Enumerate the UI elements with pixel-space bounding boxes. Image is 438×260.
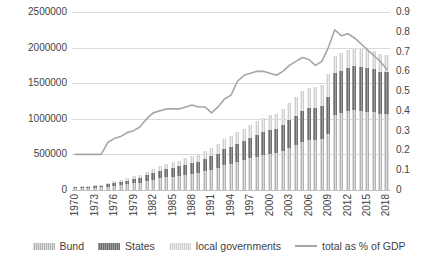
stacked-bar[interactable] [333,56,337,190]
legend-item[interactable]: Bund [33,241,85,252]
bar-segment [287,148,291,190]
stacked-bar[interactable] [99,185,103,190]
stacked-bar[interactable] [339,53,343,190]
stacked-bar[interactable] [307,88,311,190]
stacked-bar[interactable] [365,50,369,190]
bar-segment [106,187,110,190]
stacked-bar[interactable] [86,186,90,190]
legend-item[interactable]: total as % of GDP [295,241,405,252]
bar-segment [365,112,369,190]
stacked-bar[interactable] [196,155,200,190]
stacked-bar[interactable] [268,115,272,190]
bar-segment [372,112,376,190]
y-axis-tick-label: 2000000 [28,43,67,53]
legend-item[interactable]: States [98,241,155,252]
bar-segment [93,188,97,190]
stacked-bar[interactable] [313,87,317,190]
stacked-bar[interactable] [209,148,213,190]
stacked-bar[interactable] [359,48,363,190]
stacked-bar[interactable] [93,185,97,190]
bar-segment [372,51,376,69]
stacked-bar[interactable] [346,50,350,190]
bar-segment [196,162,200,173]
stacked-bar[interactable] [229,136,233,190]
stacked-bar[interactable] [384,55,388,190]
stacked-bar[interactable] [80,186,84,190]
stacked-bar[interactable] [125,178,129,190]
stacked-bar[interactable] [171,162,175,190]
stacked-bar[interactable] [222,139,226,190]
stacked-bar[interactable] [300,91,304,190]
bar-segment [209,148,213,156]
stacked-bar[interactable] [119,180,123,190]
stacked-bar[interactable] [177,161,181,190]
bar-segment [326,134,330,190]
y-axis-tick-label: 0 [61,185,67,195]
bar-segment [384,114,388,190]
stacked-bar[interactable] [320,85,324,190]
stacked-bar[interactable] [158,166,162,190]
bar-segment [261,132,265,155]
stacked-bar[interactable] [287,103,291,190]
bar-segment [80,188,84,190]
legend-label: Bund [60,241,85,252]
legend-swatch-icon [169,243,191,250]
stacked-bar[interactable] [73,187,77,190]
bar-series-group [72,12,390,190]
stacked-bar[interactable] [132,176,136,190]
stacked-bar[interactable] [183,158,187,190]
stacked-bar[interactable] [261,118,265,190]
bar-segment [235,162,239,190]
bar-segment [209,156,213,169]
stacked-bar[interactable] [190,156,194,190]
bar-segment [281,125,285,150]
bar-segment [248,138,252,158]
bar-segment [372,69,376,112]
stacked-bar[interactable] [372,51,376,190]
stacked-bar[interactable] [378,54,382,190]
bar-segment [365,50,369,68]
bar-segment [164,177,168,190]
stacked-bar[interactable] [151,169,155,190]
bar-segment [222,165,226,190]
stacked-bar[interactable] [112,181,116,190]
legend-item[interactable]: local governments [169,241,281,252]
stacked-bar[interactable] [294,97,298,190]
stacked-bar[interactable] [145,172,149,190]
stacked-bar[interactable] [242,129,246,190]
bar-segment [287,120,291,147]
bar-segment [359,111,363,190]
y-axis-tick-label: 1500000 [28,78,67,88]
stacked-bar[interactable] [164,164,168,190]
bar-segment [339,113,343,190]
y-axis-tick-label: 500000 [34,149,67,159]
legend-label: local governments [196,241,281,252]
bar-segment [384,72,388,114]
bar-segment [151,180,155,190]
stacked-bar[interactable] [352,48,356,190]
stacked-bar[interactable] [255,121,259,190]
stacked-bar[interactable] [248,125,252,190]
stacked-bar[interactable] [106,183,110,190]
bar-segment [339,71,343,114]
bar-segment [190,156,194,163]
stacked-bar[interactable] [216,144,220,190]
stacked-bar[interactable] [203,151,207,190]
bar-segment [125,184,129,190]
x-axis-tick-label: 2018 [381,194,391,216]
bar-segment [171,168,175,177]
stacked-bar[interactable] [235,132,239,190]
bar-segment [326,74,330,97]
bar-segment [313,108,317,140]
bar-segment [320,106,324,139]
bar-segment [384,55,388,73]
bar-segment [268,130,272,153]
bar-segment [307,108,311,140]
stacked-bar[interactable] [138,175,142,191]
stacked-bar[interactable] [281,109,285,190]
bar-segment [86,188,90,190]
bar-segment [151,173,155,180]
stacked-bar[interactable] [274,114,278,190]
bar-segment [378,72,382,114]
stacked-bar[interactable] [326,74,330,190]
